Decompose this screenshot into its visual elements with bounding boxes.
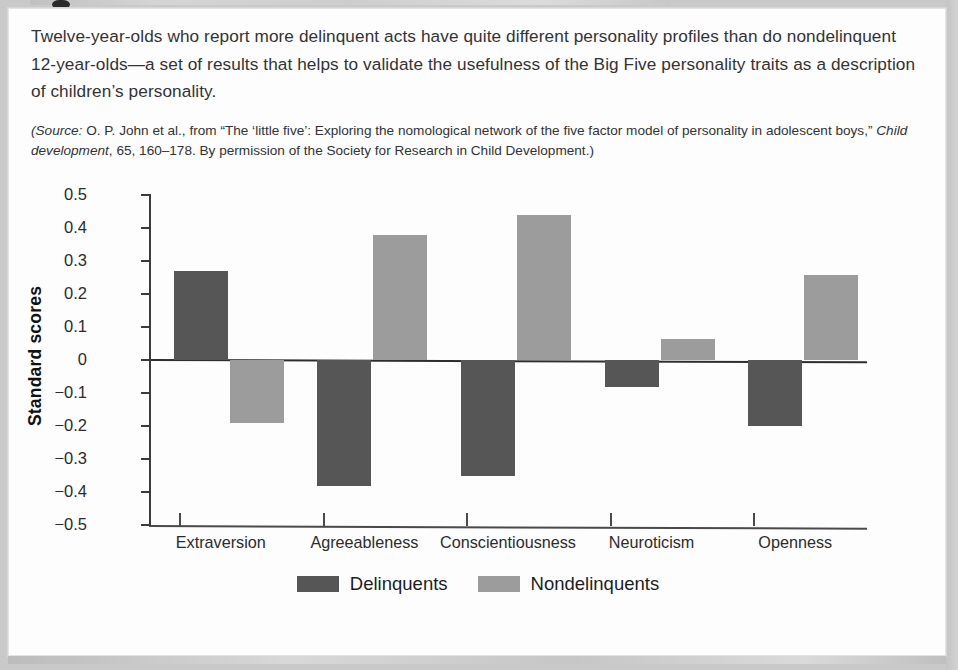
y-tick (141, 392, 151, 394)
bar-nondelinquents-extraversion (230, 360, 284, 423)
x-category-label: Conscientiousness (440, 533, 576, 552)
y-tick-label: 0 (17, 350, 87, 369)
figure-caption-body: Twelve-year-olds who report more delinqu… (31, 23, 923, 106)
legend-label-delinquents: Delinquents (350, 573, 448, 595)
legend-item-nondelinquents: Nondelinquents (478, 573, 660, 595)
legend-label-nondelinquents: Nondelinquents (531, 573, 660, 595)
y-tick-label: 0.4 (17, 218, 87, 237)
x-category-label: Openness (758, 533, 832, 552)
y-tick-label: 0.3 (17, 251, 87, 270)
y-tick (141, 491, 151, 493)
y-tick-label: −0.2 (17, 416, 87, 435)
bar-nondelinquents-neuroticism (661, 339, 715, 360)
x-category-label: Neuroticism (609, 533, 694, 552)
y-tick-label: −0.1 (17, 383, 87, 402)
y-tick-label: −0.4 (17, 482, 87, 501)
x-tick (179, 513, 181, 526)
bar-delinquents-agreeableness (317, 360, 371, 485)
figure-source-citation: (Source: O. P. John et al., from “The ‘l… (31, 121, 923, 162)
x-tick (466, 513, 468, 526)
x-category-label: Extraversion (176, 533, 266, 552)
source-label: (Source: (31, 123, 82, 138)
bar-nondelinquents-agreeableness (373, 235, 427, 360)
y-tick (141, 524, 151, 526)
y-tick (141, 227, 151, 229)
y-tick-label: −0.3 (17, 449, 87, 468)
bar-delinquents-extraversion (174, 271, 228, 360)
source-text-part-1: O. P. John et al., from “The ‘little fiv… (82, 123, 876, 138)
y-tick (141, 359, 151, 361)
bar-delinquents-conscientiousness (461, 360, 515, 476)
x-category-label: Agreeableness (310, 533, 418, 552)
bar-delinquents-openness (748, 360, 802, 426)
scan-edge-artifact-top (30, 0, 670, 5)
legend-item-delinquents: Delinquents (297, 573, 448, 595)
x-tick (753, 513, 755, 526)
grouped-bar-chart: Standard scores 0.50.40.30.20.10−0.1−0.2… (31, 181, 925, 611)
scan-edge-artifact-right (946, 0, 958, 670)
figure-panel: Twelve-year-olds who report more delinqu… (8, 8, 946, 656)
y-tick (141, 260, 151, 262)
y-tick (141, 293, 151, 295)
x-axis-line (149, 525, 867, 530)
y-tick (141, 326, 151, 328)
scan-edge-artifact-bottom (8, 656, 946, 664)
x-tick (610, 513, 612, 526)
bar-delinquents-neuroticism (605, 360, 659, 386)
bar-nondelinquents-openness (804, 275, 858, 361)
x-tick (323, 513, 325, 526)
y-tick (141, 425, 151, 427)
y-tick (141, 458, 151, 460)
bar-nondelinquents-conscientiousness (517, 215, 571, 360)
y-tick-label: 0.1 (17, 317, 87, 336)
y-tick-label: 0.2 (17, 284, 87, 303)
legend-swatch-delinquents (297, 576, 339, 592)
chart-legend: Delinquents Nondelinquents (31, 573, 925, 595)
y-tick (141, 194, 151, 196)
y-tick-label: 0.5 (17, 185, 87, 204)
source-text-part-2: , 65, 160–178. By permission of the Soci… (109, 143, 594, 158)
y-tick-label: −0.5 (17, 515, 87, 534)
legend-swatch-nondelinquents (478, 576, 520, 592)
